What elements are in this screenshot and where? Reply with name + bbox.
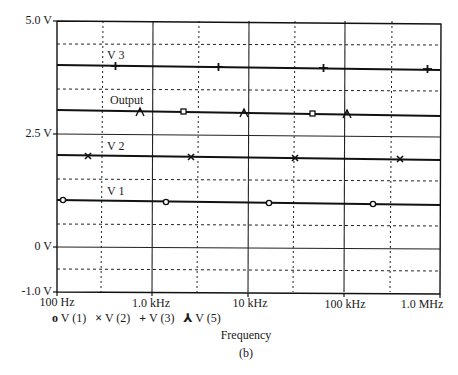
markers-v5-lambda xyxy=(136,108,351,118)
legend-item-v3: + V (3) xyxy=(139,311,174,326)
x-tick-label-100hz: 100 Hz xyxy=(40,295,75,310)
lambda-marker-icon: ⅄ xyxy=(183,311,192,325)
curve-label-v3: V 3 xyxy=(107,48,124,63)
curve-label-output: Output xyxy=(110,93,143,108)
x-tick-label-1mhz: 1.0 MHz xyxy=(401,297,444,312)
figure-caption: (b) xyxy=(239,346,253,361)
y-tick-label-5v: 5.0 V xyxy=(0,13,52,28)
legend-item-v5: ⅄ V (5) xyxy=(183,311,220,326)
x-marker-icon: × xyxy=(95,311,102,325)
legend-item-v2: × V (2) xyxy=(95,311,130,326)
curve-label-v2: V 2 xyxy=(107,139,124,154)
legend-item-v1: o V (1) xyxy=(52,311,86,326)
circle-marker-icon: o xyxy=(52,311,58,325)
x-tick-label-10khz: 10 kHz xyxy=(233,296,268,311)
x-tick-label-1khz: 1.0 kHz xyxy=(132,296,170,311)
chart-legend: o V (1) × V (2) + V (3) ⅄ V (5) xyxy=(52,311,221,326)
y-tick-label-2-5v: 2.5 V xyxy=(0,126,52,141)
curve-label-v1: V 1 xyxy=(107,184,124,199)
x-axis-title: Frequency xyxy=(221,328,272,343)
plus-marker-icon: + xyxy=(139,311,146,325)
y-tick-label-0v: 0 V xyxy=(0,239,52,254)
x-tick-label-100khz: 100 kHz xyxy=(325,297,366,312)
